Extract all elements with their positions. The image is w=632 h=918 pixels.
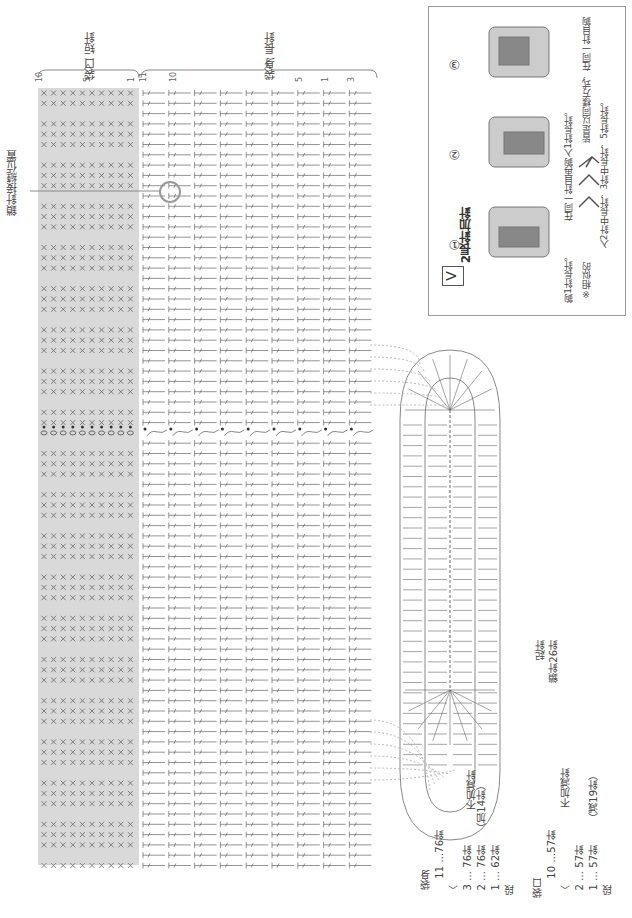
double-crochet-stitch bbox=[246, 698, 268, 704]
double-crochet-stitch bbox=[143, 543, 165, 549]
double-crochet-stitch bbox=[324, 780, 346, 786]
double-crochet-stitch bbox=[195, 389, 217, 395]
double-crochet-stitch bbox=[272, 502, 294, 508]
base-fan-stitch bbox=[450, 690, 482, 729]
foundation-label-2: 鎖針26針 bbox=[548, 640, 560, 683]
double-crochet-stitch bbox=[220, 306, 242, 312]
double-crochet-stitch bbox=[324, 100, 346, 106]
double-crochet-stitch bbox=[169, 595, 191, 601]
double-crochet-stitch bbox=[298, 162, 320, 168]
double-crochet-stitch bbox=[272, 142, 294, 148]
double-crochet-stitch bbox=[324, 832, 346, 838]
summary-body-row-11: 11 …76針 bbox=[434, 830, 446, 879]
double-crochet-stitch bbox=[246, 492, 268, 498]
double-crochet-stitch bbox=[143, 584, 165, 590]
double-crochet-stitch bbox=[298, 801, 320, 807]
double-crochet-stitch bbox=[169, 296, 191, 302]
double-crochet-stitch bbox=[349, 183, 371, 189]
double-crochet-stitch bbox=[298, 471, 320, 477]
double-crochet-stitch bbox=[298, 203, 320, 209]
double-crochet-stitch bbox=[246, 214, 268, 220]
double-crochet-stitch bbox=[195, 461, 217, 467]
double-crochet-stitch bbox=[220, 389, 242, 395]
double-crochet-stitch bbox=[272, 780, 294, 786]
double-crochet-stitch bbox=[195, 584, 217, 590]
double-crochet-stitch bbox=[298, 718, 320, 724]
double-crochet-stitch bbox=[143, 780, 165, 786]
double-crochet-stitch bbox=[324, 770, 346, 776]
double-crochet-stitch bbox=[298, 358, 320, 364]
double-crochet-stitch bbox=[272, 399, 294, 405]
summary-body-row-2: 2 … 76針 bbox=[476, 845, 488, 890]
double-crochet-stitch bbox=[246, 729, 268, 735]
double-crochet-stitch bbox=[272, 605, 294, 611]
double-crochet-stitch bbox=[272, 564, 294, 570]
double-crochet-stitch bbox=[143, 275, 165, 281]
double-crochet-stitch bbox=[272, 471, 294, 477]
double-crochet-stitch bbox=[272, 739, 294, 745]
double-crochet-stitch bbox=[169, 760, 191, 766]
double-crochet-stitch bbox=[298, 636, 320, 642]
double-crochet-stitch bbox=[169, 523, 191, 529]
double-crochet-stitch bbox=[220, 358, 242, 364]
double-crochet-stitch bbox=[220, 832, 242, 838]
double-crochet-stitch bbox=[272, 636, 294, 642]
double-crochet-stitch bbox=[349, 605, 371, 611]
double-crochet-stitch bbox=[298, 183, 320, 189]
double-crochet-stitch bbox=[272, 451, 294, 457]
double-crochet-stitch bbox=[195, 626, 217, 632]
double-crochet-stitch bbox=[169, 863, 191, 869]
double-crochet-stitch bbox=[169, 440, 191, 446]
double-crochet-stitch bbox=[169, 729, 191, 735]
double-crochet-stitch bbox=[220, 595, 242, 601]
summary-mouth-row-2: 2 … 57針 bbox=[574, 845, 586, 890]
double-crochet-stitch bbox=[324, 554, 346, 560]
summary-mouth-row-1: 1 … 57針 bbox=[588, 845, 600, 890]
double-crochet-stitch bbox=[349, 780, 371, 786]
double-crochet-stitch bbox=[349, 317, 371, 323]
double-crochet-stitch bbox=[169, 275, 191, 281]
double-crochet-stitch bbox=[220, 842, 242, 848]
double-crochet-stitch bbox=[246, 512, 268, 518]
double-crochet-stitch bbox=[246, 842, 268, 848]
double-crochet-stitch bbox=[298, 523, 320, 529]
double-crochet-stitch bbox=[324, 533, 346, 539]
double-crochet-stitch bbox=[220, 729, 242, 735]
double-crochet-stitch bbox=[324, 718, 346, 724]
double-crochet-stitch bbox=[298, 451, 320, 457]
double-crochet-stitch bbox=[349, 224, 371, 230]
double-crochet-stitch bbox=[246, 832, 268, 838]
stitch-marker bbox=[119, 425, 122, 428]
double-crochet-stitch bbox=[272, 512, 294, 518]
summary-mouth-note-decrease: （減19針） bbox=[588, 770, 600, 823]
double-crochet-stitch bbox=[246, 90, 268, 96]
double-crochet-stitch bbox=[220, 399, 242, 405]
double-crochet-stitch bbox=[143, 142, 165, 148]
double-crochet-stitch bbox=[298, 698, 320, 704]
double-crochet-stitch bbox=[324, 234, 346, 240]
summary-body: 袋身 11 …76針 〈 3 … 76針 2 … 76針 1 … 62針 段 不… bbox=[418, 790, 528, 910]
double-crochet-stitch bbox=[169, 409, 191, 415]
double-crochet-stitch bbox=[272, 842, 294, 848]
double-crochet-stitch bbox=[195, 595, 217, 601]
double-crochet-stitch bbox=[246, 667, 268, 673]
double-crochet-stitch bbox=[220, 131, 242, 137]
double-crochet-stitch bbox=[220, 502, 242, 508]
double-crochet-stitch bbox=[324, 657, 346, 663]
double-crochet-stitch bbox=[195, 193, 217, 199]
double-crochet-stitch bbox=[220, 687, 242, 693]
double-crochet-stitch bbox=[143, 626, 165, 632]
double-crochet-stitch bbox=[169, 708, 191, 714]
double-crochet-stitch bbox=[324, 852, 346, 858]
chain-stitch bbox=[199, 430, 219, 436]
double-crochet-stitch bbox=[324, 821, 346, 827]
double-crochet-stitch bbox=[169, 461, 191, 467]
double-crochet-stitch bbox=[169, 657, 191, 663]
double-crochet-stitch bbox=[246, 162, 268, 168]
double-crochet-stitch bbox=[169, 90, 191, 96]
double-crochet-stitch bbox=[220, 708, 242, 714]
double-crochet-stitch bbox=[298, 337, 320, 343]
double-crochet-stitch bbox=[246, 852, 268, 858]
double-crochet-stitch bbox=[324, 595, 346, 601]
double-crochet-stitch bbox=[298, 626, 320, 632]
